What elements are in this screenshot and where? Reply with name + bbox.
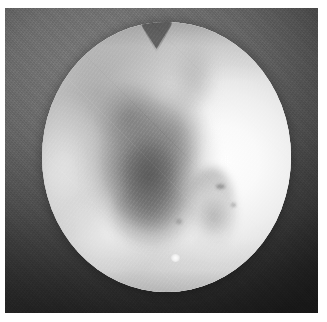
photographic-plate (5, 8, 318, 313)
bottom-paper-margin (0, 313, 327, 322)
lower-right-dark-patch (196, 195, 231, 238)
circular-field-of-view (42, 22, 291, 292)
image-viewer (0, 0, 327, 322)
field-of-view-disc (42, 22, 291, 292)
